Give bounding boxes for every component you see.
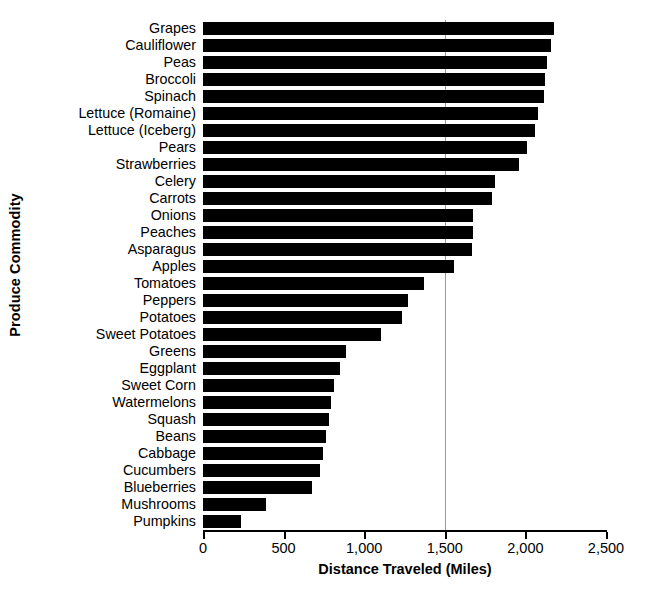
- y-axis-tick-label: Cucumbers: [123, 462, 196, 479]
- y-axis-tick-label: Onions: [151, 207, 196, 224]
- x-axis-tick-label: 0: [199, 540, 207, 556]
- bar: [203, 447, 323, 460]
- y-axis-tick-label: Blueberries: [124, 479, 196, 496]
- bar: [203, 124, 535, 137]
- bar: [203, 311, 402, 324]
- y-axis-tick-label: Grapes: [149, 20, 196, 37]
- x-axis-tick: [525, 532, 527, 539]
- y-axis-tick-label: Peppers: [143, 292, 196, 309]
- bar: [203, 464, 320, 477]
- x-axis-tick: [364, 532, 366, 539]
- y-axis-tick-label: Mushrooms: [121, 496, 196, 513]
- plot-area: [203, 20, 606, 530]
- x-axis-tick: [203, 532, 205, 539]
- y-axis-tick-label: Eggplant: [140, 360, 196, 377]
- y-axis-tick-label: Spinach: [144, 88, 196, 105]
- y-axis-tick-label: Tomatoes: [134, 275, 196, 292]
- bar: [203, 175, 495, 188]
- y-axis-title-text: Produce Commodity: [7, 193, 23, 337]
- bar: [203, 277, 424, 290]
- bar: [203, 226, 473, 239]
- y-axis-tick-label: Sweet Corn: [121, 377, 196, 394]
- x-axis-title: Distance Traveled (Miles): [203, 561, 607, 577]
- y-axis-tick-label: Celery: [155, 173, 196, 190]
- y-axis-tick-label: Cabbage: [138, 445, 196, 462]
- x-axis-tick-labels: 05001,0001,5002,0002,500: [203, 540, 607, 560]
- bar: [203, 345, 346, 358]
- bar: [203, 158, 519, 171]
- bar: [203, 294, 408, 307]
- x-axis-ticks: [203, 532, 607, 539]
- bar: [203, 498, 266, 511]
- y-axis-tick-label: Peaches: [140, 224, 196, 241]
- y-axis-tick-label: Sweet Potatoes: [96, 326, 196, 343]
- y-axis-tick-label: Beans: [155, 428, 196, 445]
- y-axis-tick-label: Carrots: [149, 190, 196, 207]
- bar: [203, 141, 527, 154]
- bar: [203, 209, 473, 222]
- bar: [203, 430, 326, 443]
- y-axis-title: Produce Commodity: [0, 0, 30, 530]
- bar: [203, 22, 554, 35]
- y-axis-tick-label: Cauliflower: [125, 37, 196, 54]
- bar: [203, 56, 547, 69]
- y-axis-tick-label: Lettuce (Romaine): [78, 105, 196, 122]
- bar: [203, 39, 551, 52]
- chart-figure: Produce Commodity GrapesCauliflowerPeasB…: [0, 0, 654, 600]
- y-axis-tick-label: Watermelons: [112, 394, 196, 411]
- x-axis-tick-label: 2,500: [588, 540, 624, 556]
- y-axis-tick-label: Apples: [152, 258, 196, 275]
- bar: [203, 192, 492, 205]
- bar: [203, 107, 538, 120]
- y-axis-tick-label: Greens: [149, 343, 196, 360]
- bar: [203, 515, 241, 528]
- y-axis-tick-label: Strawberries: [116, 156, 196, 173]
- bar: [203, 243, 472, 256]
- y-axis-tick-label: Pears: [159, 139, 196, 156]
- y-axis-tick-label: Squash: [148, 411, 197, 428]
- x-axis-tick: [445, 532, 447, 539]
- y-axis-tick-label: Asparagus: [128, 241, 196, 258]
- x-axis-tick: [606, 532, 608, 539]
- y-axis-tick-label: Pumpkins: [133, 513, 196, 530]
- bar: [203, 396, 331, 409]
- x-axis-tick-label: 1,500: [427, 540, 463, 556]
- bar: [203, 481, 312, 494]
- y-axis-tick-label: Potatoes: [140, 309, 196, 326]
- x-axis-tick-label: 500: [271, 540, 295, 556]
- x-axis-tick: [284, 532, 286, 539]
- bar-series: [203, 20, 606, 530]
- x-axis-tick-label: 2,000: [507, 540, 543, 556]
- x-axis-tick-label: 1,000: [346, 540, 382, 556]
- y-axis-tick-label: Lettuce (Iceberg): [88, 122, 196, 139]
- bar: [203, 379, 334, 392]
- bar: [203, 328, 381, 341]
- bar: [203, 362, 340, 375]
- bar: [203, 73, 545, 86]
- bar: [203, 413, 329, 426]
- bar: [203, 90, 544, 103]
- y-axis-tick-labels: GrapesCauliflowerPeasBroccoliSpinachLett…: [30, 20, 200, 530]
- y-axis-tick-label: Peas: [163, 54, 196, 71]
- y-axis-tick-label: Broccoli: [145, 71, 196, 88]
- bar: [203, 260, 454, 273]
